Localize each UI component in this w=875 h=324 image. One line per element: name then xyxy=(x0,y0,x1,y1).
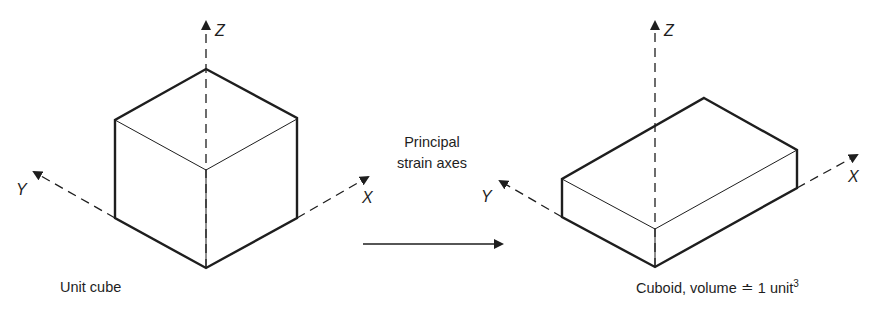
cuboid xyxy=(500,22,857,267)
cuboid-inner-edge xyxy=(655,150,797,229)
unit-cube-caption: Unit cube xyxy=(60,279,121,295)
principal-label: Principal strain axes xyxy=(362,132,502,174)
z-axis-label-right: Z xyxy=(664,22,674,40)
cuboid-inner-edge xyxy=(562,179,655,229)
cube-inner-edge xyxy=(115,120,206,170)
cuboid-caption: Cuboid, volume ≐ 1 unit3 xyxy=(636,278,799,296)
cuboid-caption-exponent: 3 xyxy=(793,278,799,289)
unit-cube xyxy=(34,22,368,268)
cube-inner-edge xyxy=(206,119,297,170)
principal-line1: Principal xyxy=(362,132,502,153)
principal-line2: strain axes xyxy=(362,153,502,174)
x-axis-label-right: X xyxy=(848,168,859,186)
cuboid-caption-text: Cuboid, volume ≐ 1 unit xyxy=(636,280,793,296)
cuboid-outline xyxy=(562,98,797,267)
y-axis-right xyxy=(500,181,562,217)
x-axis-left xyxy=(297,177,368,218)
z-axis-label-left: Z xyxy=(215,22,225,40)
x-axis-label-left: X xyxy=(362,189,373,207)
y-axis-label-right: Y xyxy=(481,188,492,206)
strain-diagram: Z Y X Unit cube Principal strain axes Z … xyxy=(0,0,875,324)
y-axis-label-left: Y xyxy=(16,181,27,199)
y-axis-left xyxy=(34,172,115,218)
